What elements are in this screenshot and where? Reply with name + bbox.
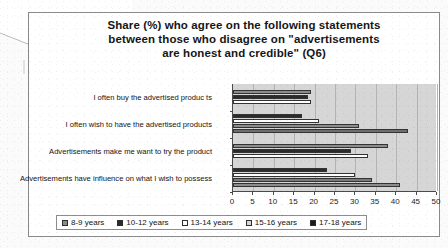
x-axis-tick	[232, 192, 233, 195]
x-axis-tick	[293, 192, 294, 195]
legend-item: 10-12 years	[117, 218, 168, 227]
legend-swatch	[246, 220, 252, 226]
x-axis-tick	[436, 192, 437, 195]
category-label: I often wish to have the advertised prod…	[66, 120, 212, 129]
x-axis-tick-label: 0	[222, 197, 242, 206]
legend-swatch	[117, 220, 123, 226]
legend-label: 15-16 years	[255, 218, 297, 227]
legend-item: 15-16 years	[246, 218, 297, 227]
bar	[233, 183, 400, 187]
bar	[233, 100, 311, 104]
legend-label: 10-12 years	[126, 218, 168, 227]
gridline	[437, 84, 438, 191]
x-axis-tick-label: 5	[242, 197, 262, 206]
category-label: Advertisements make me want to try the p…	[49, 147, 212, 156]
plot-area	[232, 84, 436, 192]
x-axis-tick	[273, 192, 274, 195]
legend-swatch	[182, 220, 188, 226]
x-axis-tick-label: 35	[365, 197, 385, 206]
gridline	[376, 84, 377, 191]
x-axis-tick-label: 25	[324, 197, 344, 206]
bar	[233, 173, 355, 177]
bar	[233, 114, 302, 118]
bar	[233, 119, 319, 123]
bar	[233, 144, 388, 148]
bar	[233, 154, 368, 158]
legend-swatch	[62, 220, 68, 226]
x-axis-tick-label: 10	[263, 197, 283, 206]
legend-label: 13-14 years	[191, 218, 233, 227]
bar	[233, 95, 308, 99]
gridline	[396, 84, 397, 191]
x-axis-tick-label: 30	[344, 197, 364, 206]
plot-wrap: 05101520253035404550	[232, 84, 436, 192]
chart-title-line-1: Share (%) who agree on the following sta…	[58, 18, 430, 32]
y-axis-tick	[230, 138, 233, 139]
bar	[233, 124, 359, 128]
x-axis-tick	[314, 192, 315, 195]
x-axis-tick	[395, 192, 396, 195]
y-axis-tick	[230, 111, 233, 112]
legend-label: 8-9 years	[71, 218, 104, 227]
x-axis-tick	[354, 192, 355, 195]
gridline	[355, 84, 356, 191]
gridline	[417, 84, 418, 191]
bar	[233, 168, 327, 172]
x-axis-tick-label: 15	[283, 197, 303, 206]
legend-item: 13-14 years	[182, 218, 233, 227]
x-axis-tick	[252, 192, 253, 195]
bar	[233, 90, 311, 94]
legend-swatch	[310, 220, 316, 226]
x-axis-tick	[375, 192, 376, 195]
legend-label: 17-18 years	[319, 218, 361, 227]
x-axis-tick	[416, 192, 417, 195]
chart-title: Share (%) who agree on the following sta…	[58, 18, 430, 60]
category-label: Advertisements have influence on what I …	[20, 174, 212, 183]
x-axis-tick-label: 40	[385, 197, 405, 206]
bar	[233, 178, 372, 182]
chart-title-line-2: between those who disagree on "advertise…	[58, 32, 430, 46]
x-axis-tick-label: 20	[304, 197, 324, 206]
chart-legend: 8-9 years10-12 years13-14 years15-16 yea…	[56, 215, 367, 230]
x-axis-tick-label: 50	[426, 197, 446, 206]
category-label: I often buy the advertised produc ts	[93, 93, 212, 102]
legend-item: 8-9 years	[62, 218, 104, 227]
x-axis-tick-label: 45	[406, 197, 426, 206]
x-axis-tick	[334, 192, 335, 195]
bar	[233, 129, 408, 133]
legend-item: 17-18 years	[310, 218, 361, 227]
chart-title-line-3: are honest and credible" (Q6)	[58, 46, 430, 60]
y-axis-tick	[230, 165, 233, 166]
bar	[233, 149, 351, 153]
